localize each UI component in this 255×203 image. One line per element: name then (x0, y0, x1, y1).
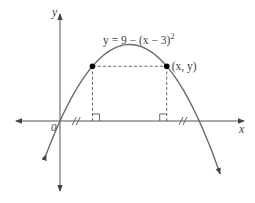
right-angle-marker-right (160, 114, 167, 121)
equation-exponent: 2 (170, 32, 174, 41)
equation-text: y = 9 − (x − 3) (103, 34, 171, 47)
point-left (90, 63, 96, 69)
equation-label: y = 9 − (x − 3)2 (103, 32, 174, 47)
origin-label: 0 (51, 121, 57, 133)
point-label: (x, y) (172, 60, 197, 73)
point-right (164, 63, 170, 69)
x-axis-label: x (238, 122, 245, 136)
rectangle-under-parabola-diagram: y x 0 y = 9 − (x − 3)2 (x, y) (0, 0, 255, 203)
y-axis-label: y (51, 5, 58, 19)
right-angle-marker-left (92, 114, 99, 121)
